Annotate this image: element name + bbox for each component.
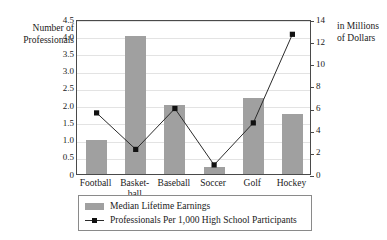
legend-line-marker (92, 218, 97, 223)
right-axis-tickmark (310, 132, 314, 133)
line-marker (172, 106, 177, 111)
page-title: Professionals Hired in the U.S. in 2000 (0, 0, 387, 2)
left-axis-tick: 3.5 (34, 50, 74, 59)
right-axis-tick: 4 (316, 126, 338, 135)
left-axis-tick: 3.0 (34, 67, 74, 76)
line-marker (290, 32, 295, 37)
right-axis-tickmark (310, 43, 314, 44)
legend-label-earnings: Median Lifetime Earnings (110, 201, 210, 212)
left-axis-tick: 2.5 (34, 84, 74, 93)
line-marker (94, 110, 99, 115)
right-axis-tick: 14 (316, 16, 338, 25)
right-axis-tick: 8 (316, 82, 338, 91)
x-axis-label-line1: Soccer (200, 178, 226, 188)
right-axis-tick: 0 (316, 171, 338, 180)
x-axis-label-line1: Football (80, 178, 112, 188)
line-series (77, 21, 312, 176)
right-axis-title-line1: in Millions (337, 21, 379, 31)
right-axis-tickmark (310, 154, 314, 155)
left-axis-tick: 4.0 (34, 33, 74, 42)
right-axis-tickmark (310, 21, 314, 22)
left-axis-tick: 1.0 (34, 136, 74, 145)
x-axis-label-line1: Hockey (277, 178, 307, 188)
plot-area (76, 20, 311, 175)
right-axis-title: in Millions of Dollars (337, 20, 387, 44)
legend-item-earnings: Median Lifetime Earnings (85, 199, 210, 213)
right-axis-tickmark (310, 65, 314, 66)
left-axis-tick: 4.5 (34, 16, 74, 25)
line-markers (94, 32, 295, 168)
line-path (97, 34, 293, 165)
left-axis-tick: 2.0 (34, 102, 74, 111)
legend-label-professionals: Professionals Per 1,000 High School Part… (110, 215, 297, 226)
right-axis-tick: 12 (316, 38, 338, 47)
right-axis-tick: 6 (316, 104, 338, 113)
right-axis-tick: 2 (316, 148, 338, 157)
line-marker (251, 120, 256, 125)
legend-bar-swatch (85, 203, 104, 210)
right-axis-tickmark (310, 176, 314, 177)
x-axis-label: Hockey (267, 178, 315, 189)
left-axis-tick: 1.5 (34, 119, 74, 128)
line-marker (212, 162, 217, 167)
right-axis-tick: 10 (316, 60, 338, 69)
left-axis-tick: 0.5 (34, 153, 74, 162)
legend: Median Lifetime Earnings Professionals P… (78, 195, 312, 231)
line-marker (133, 147, 138, 152)
x-axis-label-line1: Baseball (158, 178, 191, 188)
right-axis-tickmark (310, 110, 314, 111)
x-axis-label-line1: Basket- (120, 178, 149, 188)
legend-item-professionals: Professionals Per 1,000 High School Part… (85, 213, 297, 227)
left-axis-tick: 0 (34, 171, 74, 180)
right-axis-title-line2: of Dollars (337, 33, 375, 43)
right-axis-tickmark (310, 87, 314, 88)
legend-line-swatch (85, 217, 104, 224)
x-axis-label-line1: Golf (244, 178, 261, 188)
